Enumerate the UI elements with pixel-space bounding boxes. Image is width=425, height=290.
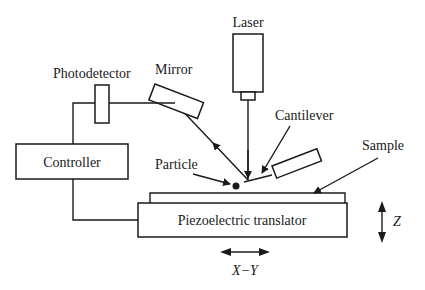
controller-label: Controller <box>43 155 101 170</box>
particle-pointer <box>193 174 230 184</box>
controller-translator-wire <box>73 179 138 220</box>
mirror: Mirror <box>149 62 204 119</box>
xy-arrow-left-icon <box>220 248 231 256</box>
cantilever-holder <box>272 149 321 178</box>
translator-label: Piezoelectric translator <box>178 213 307 228</box>
afm-diagram: Laser Mirror Photodetector Controller Ca… <box>0 0 425 290</box>
z-axis-label: Z <box>393 214 401 229</box>
particle-dot <box>233 183 240 190</box>
piezo-translator: Piezoelectric translator <box>138 203 347 237</box>
photodetector: Photodetector <box>53 66 131 123</box>
particle-label: Particle <box>155 157 198 172</box>
photodetector-body <box>95 85 109 123</box>
laser-body <box>233 34 263 92</box>
mirror-label: Mirror <box>155 62 193 77</box>
laser-label: Laser <box>232 15 263 30</box>
photodetector-label: Photodetector <box>53 66 131 81</box>
reflected-beam-arrow <box>213 143 248 180</box>
laser: Laser <box>232 15 263 100</box>
xy-axis: X−Y <box>220 248 270 278</box>
cantilever-label: Cantilever <box>275 108 334 123</box>
sample-label: Sample <box>362 138 404 153</box>
mirror-body <box>149 84 204 119</box>
laser-aperture <box>241 92 255 100</box>
z-arrow-down-icon <box>378 232 386 243</box>
sample-pointer <box>314 158 378 193</box>
detector-controller-wire <box>73 103 95 144</box>
z-axis: Z <box>378 201 401 243</box>
controller: Controller <box>16 144 128 179</box>
xy-arrow-right-icon <box>259 248 270 256</box>
cantilever: Cantilever <box>244 108 334 182</box>
xy-axis-label: X−Y <box>231 263 260 278</box>
z-arrow-up-icon <box>378 201 386 212</box>
sample-slab <box>150 193 345 203</box>
particle: Particle <box>155 157 240 190</box>
